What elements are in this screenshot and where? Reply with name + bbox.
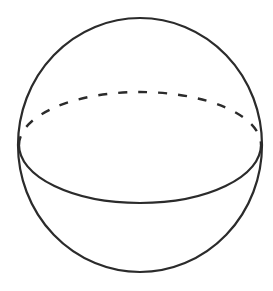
equator-back-dashed (19, 92, 261, 145)
sphere-diagram (0, 0, 273, 291)
sphere-outline (18, 18, 262, 272)
equator-front-solid (19, 145, 261, 203)
sphere-figure (0, 0, 273, 291)
